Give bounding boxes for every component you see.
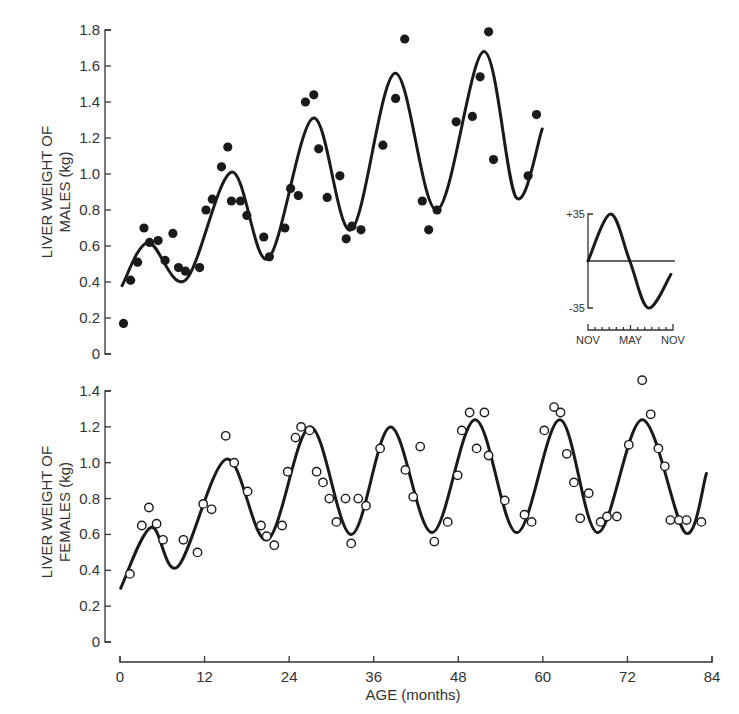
data-point — [199, 500, 207, 508]
data-point — [347, 539, 355, 547]
x-axis — [120, 656, 712, 662]
y-tick-label: 0.8 — [79, 490, 100, 507]
data-point — [452, 117, 461, 126]
x-tick-label: 12 — [196, 668, 213, 685]
data-point — [532, 110, 541, 119]
data-point — [458, 426, 466, 434]
data-point — [356, 225, 365, 234]
data-point — [126, 276, 135, 285]
data-point — [294, 191, 303, 200]
inset-x-tick-label: NOV — [576, 334, 601, 346]
data-point — [603, 512, 611, 520]
data-point — [168, 229, 177, 238]
inset-ytick-bottom: -35 — [569, 302, 585, 314]
data-point — [465, 408, 473, 416]
inset-ytick-top: +35 — [566, 208, 585, 220]
data-point — [484, 451, 492, 459]
data-point — [416, 442, 424, 450]
inset-x-tick-label: NOV — [661, 334, 686, 346]
females-panel: 00.20.40.60.81.01.21.4 012243648607284 L… — [38, 376, 720, 703]
liver-weight-figure: 00.20.40.60.81.01.21.41.61.8 LIVER WEIGH… — [0, 0, 739, 714]
data-point — [301, 97, 310, 106]
data-point — [638, 376, 646, 384]
data-point — [139, 223, 148, 232]
data-point — [309, 90, 318, 99]
data-point — [133, 258, 142, 267]
y-tick-label: 0.6 — [79, 237, 100, 254]
y-tick-label: 0.8 — [79, 201, 100, 218]
x-axis-title: AGE (months) — [365, 686, 460, 703]
data-point — [208, 195, 217, 204]
data-point — [527, 518, 535, 526]
data-point — [376, 444, 384, 452]
males-y-label-line2: MALES (kg) — [56, 152, 73, 233]
data-point — [480, 408, 488, 416]
data-point — [501, 496, 509, 504]
data-point — [119, 319, 128, 328]
y-tick-label: 0.4 — [79, 273, 100, 290]
females-fit-curve — [121, 420, 707, 589]
data-point — [362, 502, 370, 510]
data-point — [265, 252, 274, 261]
data-point — [319, 478, 327, 486]
data-point — [145, 238, 154, 247]
x-tick-label: 0 — [116, 668, 124, 685]
data-point — [341, 494, 349, 502]
y-tick-label: 1.4 — [79, 382, 100, 399]
data-point — [576, 514, 584, 522]
data-point — [347, 222, 356, 231]
data-point — [312, 468, 320, 476]
data-point — [418, 196, 427, 205]
data-point — [242, 211, 251, 220]
x-tick-label: 24 — [281, 668, 298, 685]
data-point — [570, 478, 578, 486]
data-point — [126, 570, 134, 578]
y-tick-label: 0.6 — [79, 525, 100, 542]
data-point — [154, 236, 163, 245]
data-point — [305, 426, 313, 434]
females-y-ticks: 00.20.40.60.81.01.21.4 — [79, 382, 111, 650]
males-y-ticks: 00.20.40.60.81.01.21.41.61.8 — [79, 21, 111, 362]
data-point — [297, 423, 305, 431]
data-point — [342, 234, 351, 243]
males-y-axis — [105, 30, 111, 354]
y-tick-label: 1.2 — [79, 418, 100, 435]
males-y-label-line1: LIVER WEIGHT OF — [38, 126, 55, 258]
data-point — [524, 171, 533, 180]
data-point — [391, 94, 400, 103]
data-point — [222, 432, 230, 440]
data-point — [243, 487, 251, 495]
data-point — [484, 27, 493, 36]
data-point — [489, 155, 498, 164]
inset-x-ticks: NOVMAYNOV — [576, 325, 686, 346]
data-point — [354, 494, 362, 502]
data-point — [332, 518, 340, 526]
data-point — [217, 162, 226, 171]
data-point — [181, 267, 190, 276]
y-tick-label: 1.2 — [79, 129, 100, 146]
data-point — [138, 521, 146, 529]
data-point — [257, 521, 265, 529]
data-point — [401, 466, 409, 474]
data-point — [697, 518, 705, 526]
x-ticks: 012243648607284 — [116, 656, 721, 685]
data-point — [585, 489, 593, 497]
y-tick-label: 1.0 — [79, 454, 100, 471]
data-point — [259, 232, 268, 241]
data-point — [472, 444, 480, 452]
data-point — [161, 256, 170, 265]
data-point — [647, 410, 655, 418]
y-tick-label: 1.4 — [79, 93, 100, 110]
females-y-axis — [105, 391, 111, 642]
data-point — [314, 144, 323, 153]
y-tick-label: 1.0 — [79, 165, 100, 182]
y-tick-label: 0 — [92, 633, 100, 650]
data-point — [540, 426, 548, 434]
data-point — [284, 468, 292, 476]
data-point — [613, 512, 621, 520]
data-point — [666, 516, 674, 524]
data-point — [476, 72, 485, 81]
data-point — [145, 503, 153, 511]
x-tick-label: 36 — [365, 668, 382, 685]
data-point — [286, 184, 295, 193]
